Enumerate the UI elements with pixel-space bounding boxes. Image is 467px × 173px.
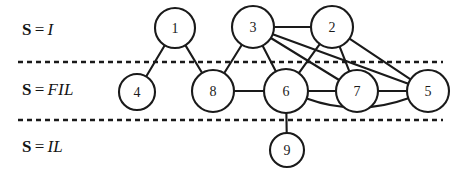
band-label-equals: =	[32, 137, 48, 156]
node-label-9: 9	[284, 143, 291, 158]
band-label-symbol: S	[22, 80, 32, 99]
band-label-equals: =	[32, 20, 48, 39]
edge-3-6	[263, 46, 276, 72]
graph-node-9[interactable]: 9	[270, 133, 304, 167]
node-label-1: 1	[172, 21, 179, 36]
node-label-8: 8	[210, 84, 217, 99]
band-label-symbol: S	[22, 137, 32, 156]
graph-figure: 132486759 S=IS=FILS=IL	[0, 0, 467, 173]
graph-node-2[interactable]: 2	[311, 6, 353, 48]
node-label-2: 2	[329, 20, 336, 35]
band-label-value: I	[47, 20, 53, 39]
graph-node-5[interactable]: 5	[407, 70, 449, 112]
node-label-6: 6	[283, 84, 290, 99]
graph-node-4[interactable]: 4	[119, 74, 155, 110]
graph-node-3[interactable]: 3	[232, 6, 274, 48]
graph-node-8[interactable]: 8	[192, 70, 234, 112]
band-label-symbol: S	[22, 20, 32, 39]
edge-1-8	[185, 45, 202, 73]
band-label-equals: =	[32, 80, 48, 99]
graph-node-1[interactable]: 1	[155, 8, 195, 48]
band-label-fil: S=FIL	[22, 80, 74, 100]
band-label-value: FIL	[47, 80, 73, 99]
graph-node-7[interactable]: 7	[336, 70, 378, 112]
edge-3-8	[224, 45, 242, 73]
band-label-i: S=I	[22, 20, 53, 40]
node-label-4: 4	[134, 85, 141, 100]
band-label-value: IL	[47, 137, 63, 156]
nodes-layer: 132486759	[119, 6, 449, 167]
graph-node-6[interactable]: 6	[264, 69, 308, 113]
band-label-il: S=IL	[22, 137, 63, 157]
node-label-7: 7	[354, 84, 361, 99]
node-label-3: 3	[250, 20, 257, 35]
node-label-5: 5	[425, 84, 432, 99]
